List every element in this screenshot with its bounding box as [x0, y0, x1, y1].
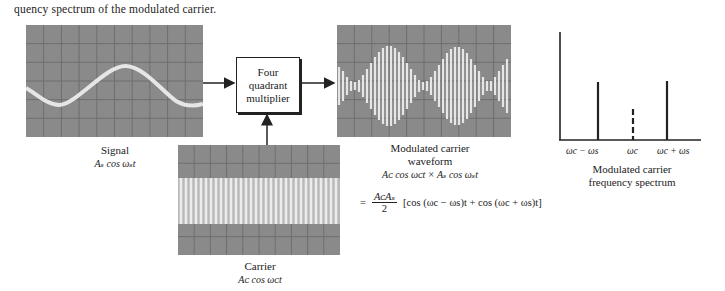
- spectrum-caption: Modulated carrier frequency spectrum: [572, 163, 692, 189]
- spectrum-caption-line1: Modulated carrier: [572, 163, 692, 176]
- spectrum-caption-line2: frequency spectrum: [572, 176, 692, 189]
- tick-upper-sideband: ωc + ωs: [657, 146, 690, 156]
- tick-carrier: ωc: [627, 146, 638, 156]
- frequency-spectrum-plot: [0, 0, 725, 291]
- tick-lower-sideband: ωc − ωs: [566, 146, 599, 156]
